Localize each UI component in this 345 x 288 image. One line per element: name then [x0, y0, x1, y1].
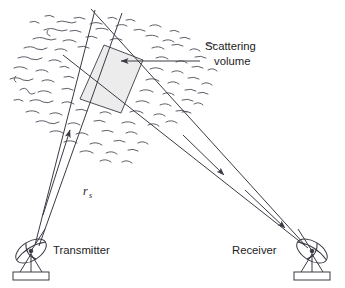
path-length-subscript: s	[89, 191, 92, 200]
figure-background	[0, 0, 345, 288]
path-length-symbol: r	[83, 184, 88, 198]
scatter-propagation-figure: Scattering volume r s Transmitter Receiv…	[0, 0, 345, 288]
scattering-volume-label-line2: volume	[214, 55, 250, 67]
transmitter-label: Transmitter	[53, 244, 110, 256]
scattering-volume-label-line1: Scattering	[205, 40, 256, 52]
receiver-label: Receiver	[232, 244, 277, 256]
